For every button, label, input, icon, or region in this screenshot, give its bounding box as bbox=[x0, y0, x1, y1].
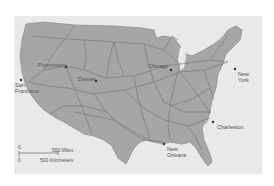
label-charleston: Charleston bbox=[217, 124, 244, 130]
city-dot-san-francisco bbox=[20, 79, 22, 81]
label-san-francisco: San Francisco bbox=[15, 82, 39, 94]
city-dot-new-orleans bbox=[163, 143, 165, 145]
label-new-york-line2: York bbox=[238, 77, 249, 83]
label-chicago: Chicago bbox=[148, 63, 168, 69]
scale-zero-km: 0 bbox=[18, 157, 21, 163]
label-new-york: New York bbox=[238, 71, 249, 83]
label-promontory: Promontory bbox=[38, 62, 66, 68]
label-new-orleans: New Orleans bbox=[167, 146, 186, 158]
label-new-orleans-line2: Orleans bbox=[167, 152, 186, 158]
us-landmass bbox=[20, 22, 242, 166]
label-san-francisco-line2: Francisco bbox=[15, 88, 39, 94]
city-dot-charleston bbox=[212, 121, 214, 123]
scale-miles-label: 500 Miles bbox=[52, 147, 73, 153]
scale-zero-miles: 0 bbox=[18, 144, 21, 150]
scale-kilometers-label: 500 Kilometers bbox=[40, 157, 73, 163]
city-dot-chicago bbox=[170, 69, 172, 71]
city-dot-new-york bbox=[234, 68, 236, 70]
railroad-map: San Francisco Promontory Denver Chicago … bbox=[14, 16, 262, 174]
label-denver: Denver bbox=[78, 76, 96, 82]
